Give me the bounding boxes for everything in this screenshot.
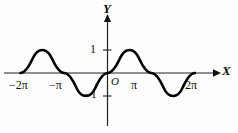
- y-tick-label-neg-1: −1: [84, 88, 97, 100]
- origin-label: O: [111, 76, 119, 87]
- x-axis-arrow-icon: [213, 69, 221, 76]
- plot-area: [0, 0, 238, 133]
- x-tick-label-pi: π: [131, 79, 137, 91]
- y-axis-label: Y: [103, 2, 111, 15]
- x-tick-label-neg-pi: −π: [49, 79, 62, 91]
- x-axis-label: X: [222, 64, 231, 77]
- sine-graph-figure: X Y −2π −π π 2π 1 −1 O: [0, 0, 238, 133]
- x-tick-label-2pi: 2π: [185, 79, 197, 91]
- y-tick-label-1: 1: [90, 43, 96, 55]
- x-tick-label-neg-2pi: −2π: [9, 79, 28, 91]
